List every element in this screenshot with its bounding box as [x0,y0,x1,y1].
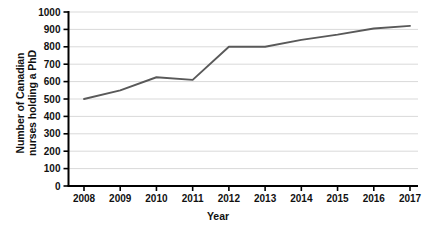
x-axis-tick-label: 2015 [326,193,349,204]
line-chart: Number of Canadian nurses holding a PhD … [0,0,424,232]
x-axis-tick-label: 2012 [218,193,241,204]
x-axis-tick-label: 2014 [290,193,313,204]
x-axis-tick-label: 2017 [399,193,422,204]
x-axis-tick-label: 2008 [73,193,96,204]
y-axis-tick-label: 500 [44,94,61,105]
y-axis-tick-label: 800 [44,41,61,52]
x-axis-tick-label: 2010 [145,193,168,204]
y-axis-tick-label: 100 [44,163,61,174]
data-series-line [84,26,410,99]
x-axis-tick-label: 2013 [254,193,277,204]
x-axis-tick-labels: 2008200920102011201220132014201520162017 [73,193,422,204]
y-axis-tick-label: 200 [44,146,61,157]
plot-area: 01002003004005006007008009001000 2008200… [0,0,424,232]
y-axis-tick-label: 300 [44,128,61,139]
x-axis-tick-label: 2016 [363,193,386,204]
y-axis-tick-label: 900 [44,24,61,35]
y-axis-tick-label: 400 [44,111,61,122]
x-axis-tick-label: 2009 [109,193,132,204]
y-axis-tick-labels: 01002003004005006007008009001000 [38,7,61,192]
x-axis-tick-label: 2011 [182,193,204,204]
y-axis-tick-label: 700 [44,59,61,70]
y-axis-tick-label: 1000 [38,7,61,18]
y-axis-tick-label: 0 [55,181,61,192]
y-axis-tick-label: 600 [44,76,61,87]
